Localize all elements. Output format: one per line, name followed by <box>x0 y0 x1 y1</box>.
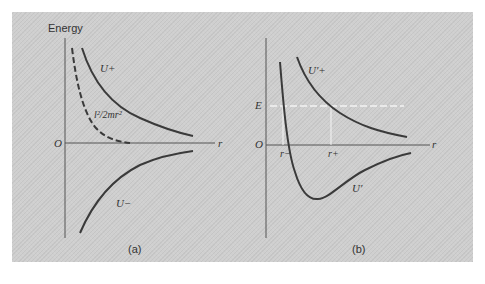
label-u-minus: U− <box>116 197 131 209</box>
energy-level-label: E <box>255 99 262 111</box>
curve-u-plus <box>82 48 193 136</box>
curve-u-prime <box>280 62 411 199</box>
caption-a: (a) <box>128 243 141 255</box>
panel-a <box>65 38 215 238</box>
origin-label-b: O <box>255 138 263 150</box>
label-centrifugal: l²/2mr² <box>94 109 122 120</box>
label-u-prime-plus: U′+ <box>308 64 326 76</box>
label-u-prime: U′ <box>352 182 362 194</box>
label-r-plus: r+ <box>328 148 339 159</box>
curve-u-minus <box>80 151 193 233</box>
panel-b <box>266 38 430 238</box>
y-axis-label-energy: Energy <box>48 22 83 34</box>
label-r-minus: r− <box>280 148 291 159</box>
caption-b: (b) <box>352 243 365 255</box>
x-axis-label-b: r <box>432 138 436 150</box>
origin-label-a: O <box>54 137 62 149</box>
label-u-plus: U+ <box>100 62 115 74</box>
energy-diagram <box>0 0 485 284</box>
x-axis-label-a: r <box>218 137 222 149</box>
